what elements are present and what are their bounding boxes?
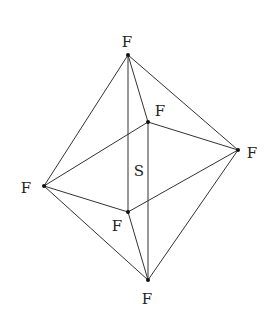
atom-node-front	[126, 210, 130, 214]
edge-bottom-front	[128, 212, 148, 280]
atom-label-left: F	[21, 179, 31, 197]
edge-top-back	[128, 55, 148, 122]
atom-label-back: F	[155, 102, 165, 120]
edge-top-left	[44, 55, 128, 186]
center-atom-label: S	[134, 162, 144, 180]
atom-node-top	[126, 53, 130, 57]
edge-bottom-left	[44, 186, 148, 280]
edge-front-left	[44, 186, 128, 212]
atom-label-right: F	[247, 144, 257, 162]
atom-node-bottom	[146, 278, 150, 282]
edge-left-back	[44, 122, 148, 186]
atom-label-top: F	[122, 33, 132, 51]
labels: F F F F F F S	[21, 33, 257, 308]
edge-bottom-right	[148, 150, 238, 280]
atom-label-front: F	[112, 217, 122, 235]
atom-node-right	[236, 148, 240, 152]
edge-back-right	[148, 122, 238, 150]
octahedron-diagram: F F F F F F S	[0, 0, 270, 325]
atom-label-bottom: F	[142, 290, 152, 308]
edge-right-front	[128, 150, 238, 212]
atom-node-back	[146, 120, 150, 124]
edge-top-right	[128, 55, 238, 150]
atom-node-left	[42, 184, 46, 188]
